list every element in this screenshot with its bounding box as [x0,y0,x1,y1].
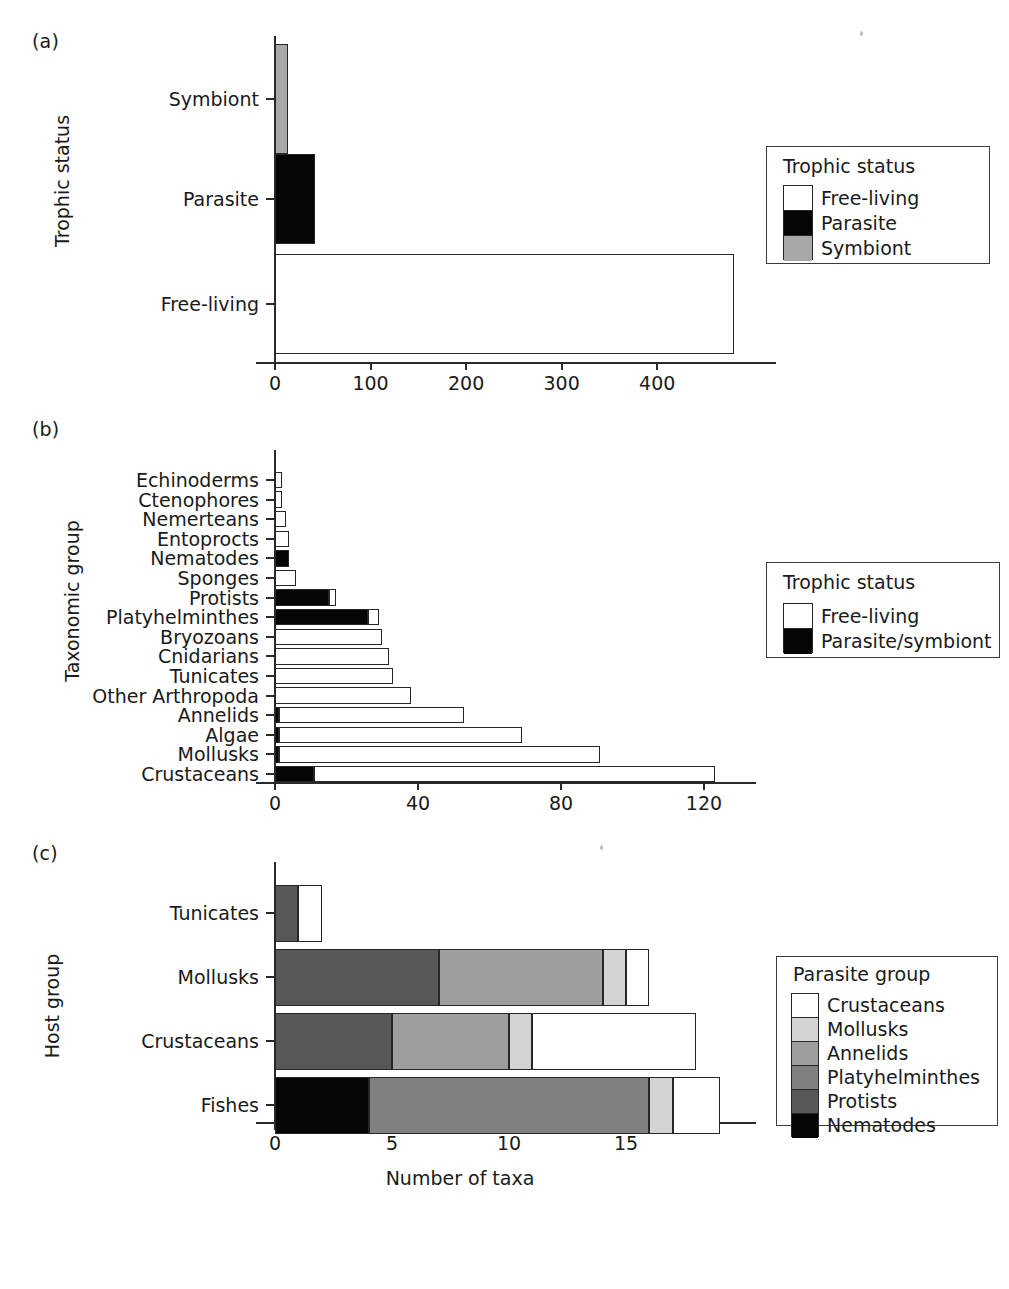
bar-segment [275,687,411,704]
y-tick-label: Protists [0,587,259,609]
legend-entry-label: Free-living [821,187,919,209]
y-tick [266,499,274,501]
bar-segment [275,648,389,665]
bar-segment [279,707,465,724]
bar-segment [509,1013,532,1070]
y-tick-label: Crustaceans [0,1030,259,1052]
y-tick-label: Entoprocts [0,528,259,550]
legend-swatch [784,236,812,261]
x-tick-label: 300 [544,372,580,394]
x-tick-label: 80 [549,792,573,814]
bar-segment [275,511,286,528]
bar-segment [275,1013,392,1070]
legend-entry-label: Parasite [821,212,897,234]
legend-swatch-column [783,603,813,653]
y-tick [266,303,274,305]
legend-swatch [784,211,812,236]
bar-segment [275,491,282,508]
y-tick-label: Nematodes [0,547,259,569]
y-tick [266,198,274,200]
y-tick [266,714,274,716]
panel-b-legend-title: Trophic status [783,571,915,593]
y-tick-label: Bryozoans [0,626,259,648]
bar-segment [275,949,439,1006]
y-tick-label: Annelids [0,704,259,726]
legend-entry-label: Annelids [827,1042,908,1064]
y-tick [266,98,274,100]
y-tick-label: Ctenophores [0,489,259,511]
bar-segment [275,727,279,744]
y-tick [266,636,274,638]
bar-segment [626,949,649,1006]
x-tick-label: 0 [269,372,281,394]
bar-segment [275,766,314,783]
y-tick-label: Platyhelminthes [0,606,259,628]
y-tick-label: Sponges [0,567,259,589]
panel-a-x-axis-line [256,362,776,364]
x-tick-label: 100 [352,372,388,394]
legend-entry-label: Free-living [821,605,919,627]
legend-swatch [792,1114,818,1138]
y-tick [266,912,274,914]
y-tick [266,1104,274,1106]
bar-segment [275,531,289,548]
x-tick [561,362,563,370]
y-tick [266,655,274,657]
bar-segment [314,766,714,783]
y-tick [266,753,274,755]
y-tick-label: Fishes [0,1094,259,1116]
y-tick-label: Parasite [0,188,259,210]
legend-swatch [784,604,812,629]
bar-segment [275,746,279,763]
y-tick [266,518,274,520]
x-tick [274,362,276,370]
x-tick [656,362,658,370]
bar-segment [275,472,282,489]
panel-c-legend-title: Parasite group [793,963,930,985]
legend-swatch [792,1066,818,1090]
x-tick-label: 40 [406,792,430,814]
y-tick [266,577,274,579]
y-tick-label: Tunicates [0,902,259,924]
legend-swatch-column [791,993,819,1137]
legend-swatch-column [783,185,813,260]
legend-swatch [784,629,812,654]
bar-segment [275,629,382,646]
bar-segment [368,609,379,626]
x-tick-label: 15 [614,1132,638,1154]
bar-segment [275,550,289,567]
x-tick [274,782,276,790]
y-tick-label: Tunicates [0,665,259,687]
y-tick [266,695,274,697]
y-tick-label: Crustaceans [0,763,259,785]
y-tick-label: Cnidarians [0,645,259,667]
bar-segment [275,254,734,354]
bar-segment [275,1077,369,1134]
legend-swatch [792,1042,818,1066]
scan-speck [860,31,863,36]
y-tick-label: Other Arthropoda [0,685,259,707]
y-tick [266,675,274,677]
x-tick-label: 5 [386,1132,398,1154]
legend-entry-label: Parasite/symbiont [821,630,992,652]
y-tick [266,734,274,736]
bar-segment [329,589,336,606]
y-tick [266,557,274,559]
legend-entry-label: Crustaceans [827,994,945,1016]
legend-entry-label: Platyhelminthes [827,1066,980,1088]
bar-segment [649,1077,672,1134]
legend-swatch [792,1090,818,1114]
y-tick [266,616,274,618]
legend-entry-label: Protists [827,1090,897,1112]
bar-segment [279,746,601,763]
legend-swatch [784,186,812,211]
legend-swatch [792,994,818,1018]
y-tick-label: Mollusks [0,966,259,988]
bar-segment [275,609,368,626]
bar-segment [532,1013,696,1070]
bar-segment [439,949,603,1006]
bar-segment [298,885,321,942]
legend-swatch [792,1018,818,1042]
y-tick [266,479,274,481]
bar-segment [275,154,315,244]
